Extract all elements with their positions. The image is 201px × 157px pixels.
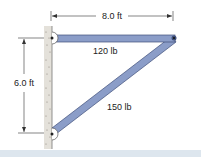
beam-weight-label: 120 lb <box>93 46 118 56</box>
end-joint <box>172 36 177 41</box>
height-label: 6.0 ft <box>14 78 35 88</box>
wall <box>44 26 52 149</box>
footer-band <box>0 150 201 157</box>
strut-weight-label: 150 lb <box>107 102 132 112</box>
width-label: 8.0 ft <box>102 11 123 21</box>
horizontal-beam <box>53 35 175 42</box>
truss-diagram: 8.0 ft 6.0 ft 120 lb 150 lb <box>0 0 201 157</box>
